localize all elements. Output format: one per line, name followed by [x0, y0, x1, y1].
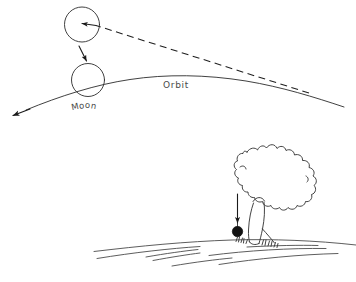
tree-trunk-base-left [250, 242, 260, 245]
tangent-arrowhead [82, 24, 96, 26]
ground-contour-3 [153, 253, 200, 261]
tree-trunk-right [259, 202, 265, 244]
tree-trunk-root-flare [263, 229, 275, 243]
circle-lower [72, 64, 105, 97]
tangent-dashed-line [96, 26, 309, 94]
moon-label: Moon [71, 100, 97, 110]
apple-fruit [232, 226, 242, 236]
ground-contour-6 [219, 254, 338, 265]
deflection-arrow [79, 46, 87, 61]
moon-label-letter-3: n [90, 100, 98, 111]
orbit-arrowhead [13, 109, 30, 116]
figure-root: Orbit Moon [0, 0, 356, 282]
ground-contour-7 [172, 258, 232, 266]
orbit-label: Orbit [163, 80, 189, 90]
ground-contour-4 [247, 245, 318, 247]
circle-upper [65, 7, 100, 42]
tree-trunk-left [248, 203, 253, 242]
tree-canopy-inner-right [306, 176, 308, 182]
diagram-canvas [0, 0, 356, 282]
moon-orbit-group [13, 7, 344, 116]
tree-canopy [234, 145, 316, 210]
apple-tree-group [94, 145, 356, 266]
tree-canopy-inner-left [240, 166, 246, 169]
